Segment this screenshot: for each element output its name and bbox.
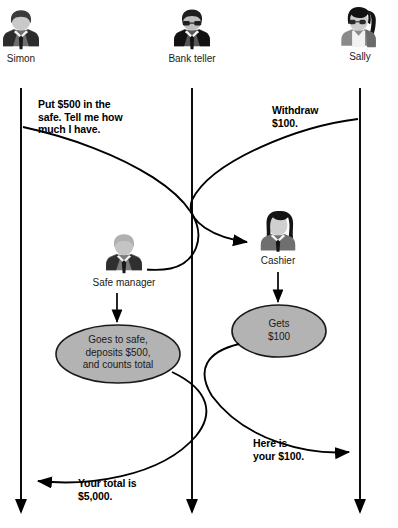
actor-name-cashier: Cashier — [249, 255, 307, 267]
message-label-withdraw-100: Withdraw $100. — [272, 104, 362, 129]
activity-label-line: deposits $500, — [56, 347, 180, 360]
woman-ponytail-glasses-avatar-icon — [337, 4, 383, 50]
actor-name-sally: Sally — [331, 51, 389, 63]
message-label-line: $100. — [272, 117, 362, 130]
message-label-line: Withdraw — [272, 104, 362, 117]
actor-name-simon: Simon — [0, 53, 50, 65]
actor-simon[interactable]: Simon — [0, 6, 50, 65]
message-label-line: $5,000. — [78, 490, 178, 503]
actor-name-safe-manager: Safe manager — [88, 277, 160, 289]
actor-safe-manager[interactable]: Safe manager — [88, 230, 160, 289]
man-glasses-suit-avatar-icon — [169, 6, 215, 52]
activity-label-line: $100 — [232, 331, 326, 344]
message-label-line: your $100. — [253, 450, 343, 463]
woman-long-hair-avatar-icon — [255, 208, 301, 254]
message-label-your-total-is-5000: Your total is $5,000. — [78, 477, 178, 502]
actor-sally[interactable]: Sally — [331, 4, 389, 63]
message-label-here-is-your-100: Here is your $100. — [253, 437, 343, 462]
sequence-diagram-canvas: Simon Bank teller — [0, 0, 398, 528]
actor-bank-teller[interactable]: Bank teller — [163, 6, 221, 65]
activity-label-cashier: Gets $100 — [232, 318, 326, 343]
message-label-put-500-in-safe: Put $500 in the safe. Tell me how much I… — [38, 98, 153, 136]
activity-label-line: and counts total — [56, 359, 180, 372]
activity-label-line: Gets — [232, 318, 326, 331]
message-label-line: much I have. — [38, 123, 153, 136]
activity-label-line: Goes to safe, — [56, 334, 180, 347]
activity-label-safe-manager: Goes to safe, deposits $500, and counts … — [56, 334, 180, 372]
man-suit-avatar-icon — [0, 6, 44, 52]
message-label-line: Put $500 in the — [38, 98, 153, 111]
message-label-line: safe. Tell me how — [38, 111, 153, 124]
message-arrow-your-total-is-5000 — [38, 372, 206, 482]
actor-name-bank-teller: Bank teller — [163, 53, 221, 65]
actor-cashier[interactable]: Cashier — [249, 208, 307, 267]
message-label-line: Here is — [253, 437, 343, 450]
message-label-line: Your total is — [78, 477, 178, 490]
man-light-suit-avatar-icon — [101, 230, 147, 276]
